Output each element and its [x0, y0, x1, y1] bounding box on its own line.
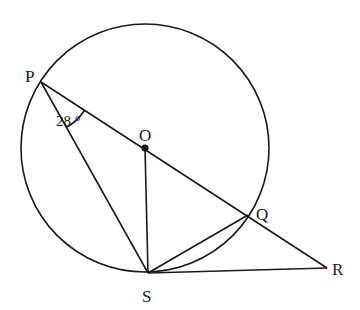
label-P: P	[25, 67, 34, 86]
label-Q: Q	[256, 205, 268, 224]
line-OS	[145, 148, 148, 273]
line-PS	[41, 82, 148, 273]
line-PR	[41, 82, 327, 268]
angle-label: 28 °	[56, 113, 81, 129]
label-S: S	[142, 287, 151, 306]
circle-geometry-diagram: P O Q R S 28 °	[0, 0, 360, 310]
center-dot-O	[141, 144, 148, 151]
label-O: O	[139, 126, 151, 145]
line-SQ	[148, 215, 248, 273]
label-R: R	[332, 260, 344, 279]
